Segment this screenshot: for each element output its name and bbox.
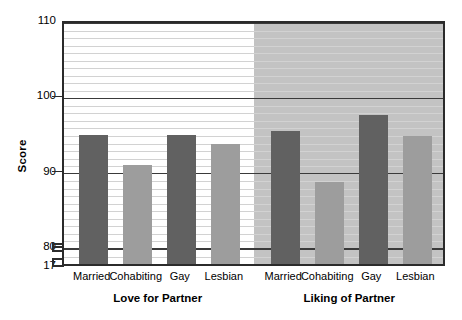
x-tick-label: Married — [265, 270, 302, 282]
axis-break-mark — [52, 258, 66, 267]
bar — [315, 182, 344, 266]
y-tick-label: 17 — [22, 260, 56, 272]
x-axis-tick-labels: MarriedCohabitingGayLesbianMarriedCohabi… — [62, 270, 445, 288]
gridline-minor — [64, 31, 443, 32]
axis-break-tip — [54, 258, 64, 260]
axis-break-tip — [54, 243, 64, 245]
axis-break-tip — [54, 265, 64, 267]
x-tick-label: Cohabiting — [109, 270, 162, 282]
x-tick-label: Lesbian — [205, 270, 244, 282]
x-tick-label: Gay — [170, 270, 190, 282]
bar — [271, 131, 300, 266]
gridline-minor — [64, 106, 443, 107]
gridline-minor — [64, 68, 443, 69]
x-tick-label: Gay — [361, 270, 381, 282]
x-tick-label: Lesbian — [396, 270, 435, 282]
bar — [211, 144, 240, 266]
bar — [167, 135, 196, 266]
y-tick-mark — [52, 171, 62, 173]
gridline-minor — [64, 61, 443, 62]
y-tick-mark — [52, 96, 62, 98]
axis-break-tip — [54, 250, 64, 252]
group-title: Love for Partner — [113, 292, 202, 304]
gridline-major — [64, 98, 443, 100]
bar — [359, 115, 388, 266]
bar — [403, 136, 432, 266]
gridline-minor — [64, 38, 443, 39]
x-tick-label: Cohabiting — [301, 270, 354, 282]
y-tick-label: 90 — [22, 166, 56, 178]
bar — [79, 135, 108, 266]
gridline-minor — [64, 76, 443, 77]
x-tick-label: Married — [73, 270, 110, 282]
y-tick-label: 100 — [22, 90, 56, 102]
y-tick-label: 110 — [22, 15, 56, 27]
axis-break-mark — [52, 243, 66, 252]
gridline-minor — [64, 46, 443, 47]
group-title: Liking of Partner — [304, 292, 395, 304]
bar-chart: Score 110100908017 MarriedCohabitingGayL… — [0, 0, 462, 320]
gridline-minor — [64, 53, 443, 54]
gridline-minor — [64, 91, 443, 92]
gridline-major — [64, 22, 443, 24]
y-axis-tick-labels: 110100908017 — [18, 0, 56, 320]
plot-area — [62, 21, 445, 266]
bar — [123, 165, 152, 266]
gridline-minor — [64, 83, 443, 84]
y-tick-label: 80 — [22, 241, 56, 253]
